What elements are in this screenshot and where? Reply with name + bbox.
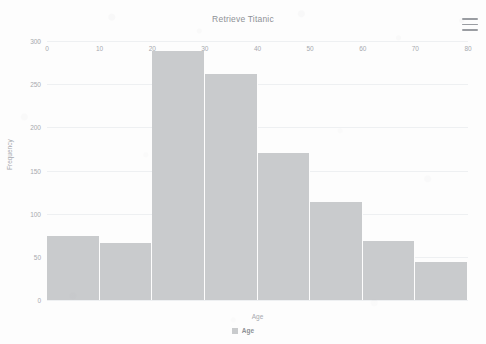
- y-tick-label: 200: [1, 124, 41, 131]
- chart-container: Retrieve Titanic Frequency 0501001502002…: [0, 0, 486, 344]
- y-tick-label: 100: [1, 210, 41, 217]
- hamburger-line-1: [462, 18, 478, 20]
- y-tick-label: 150: [1, 167, 41, 174]
- x-axis-title: Age: [47, 313, 468, 320]
- x-tick-label: 10: [96, 45, 103, 52]
- plot-area: 050100150200250300 01020304050607080: [47, 41, 468, 300]
- y-tick-label: 250: [1, 81, 41, 88]
- bar[interactable]: [310, 202, 363, 300]
- gridline: [47, 300, 468, 301]
- hamburger-line-2: [462, 24, 478, 26]
- x-tick-label: 30: [201, 45, 208, 52]
- y-axis-title: Frequency: [6, 139, 13, 170]
- bar[interactable]: [258, 153, 311, 300]
- bar[interactable]: [205, 74, 258, 300]
- gridline: [47, 127, 468, 128]
- x-tick-label: 20: [149, 45, 156, 52]
- x-tick-label: 40: [254, 45, 261, 52]
- x-tick-label: 60: [359, 45, 366, 52]
- bar[interactable]: [100, 243, 153, 300]
- legend-label-age[interactable]: Age: [242, 327, 254, 334]
- y-tick-label: 50: [1, 253, 41, 260]
- x-tick-label: 0: [45, 45, 49, 52]
- x-tick-label: 70: [412, 45, 419, 52]
- hamburger-menu-icon[interactable]: [462, 18, 478, 31]
- y-tick-label: 0: [1, 297, 41, 304]
- bar[interactable]: [152, 51, 205, 300]
- chart-legend[interactable]: Age: [0, 327, 486, 334]
- bar[interactable]: [415, 262, 468, 300]
- legend-swatch-age: [232, 328, 238, 334]
- gridline: [47, 84, 468, 85]
- gridline: [47, 41, 468, 42]
- bar[interactable]: [47, 236, 100, 300]
- chart-title: Retrieve Titanic: [0, 14, 486, 24]
- x-tick-label: 80: [464, 45, 471, 52]
- hamburger-line-3: [462, 29, 478, 31]
- bar[interactable]: [363, 241, 416, 300]
- y-tick-label: 300: [1, 38, 41, 45]
- x-tick-label: 50: [307, 45, 314, 52]
